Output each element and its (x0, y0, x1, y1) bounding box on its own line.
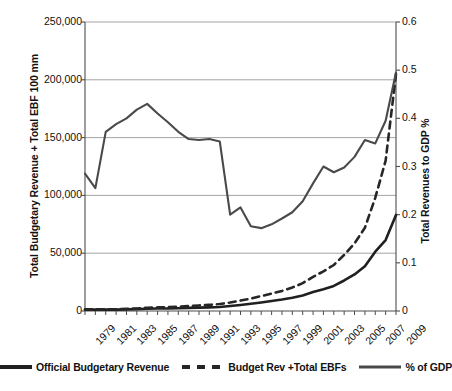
legend-swatch (182, 362, 224, 372)
legend-label: Budget Rev +Total EBFs (228, 361, 346, 373)
series-line (85, 215, 396, 310)
chart-legend: Official Budgetary RevenueBudget Rev +To… (0, 361, 442, 373)
series-line (85, 73, 396, 229)
data-series-layer (85, 73, 396, 310)
series-line (85, 74, 396, 309)
legend-label: % of GDP (405, 361, 452, 373)
axis-tickmarks (81, 22, 400, 315)
axis-lines (85, 22, 396, 311)
gridlines (85, 22, 396, 253)
legend-item: Official Budgetary Revenue (0, 361, 169, 373)
legend-item: Budget Rev +Total EBFs (182, 361, 346, 373)
legend-item: % of GDP (359, 361, 452, 373)
legend-swatch (359, 362, 401, 372)
legend-swatch (0, 362, 32, 372)
legend-label: Official Budgetary Revenue (36, 361, 169, 373)
